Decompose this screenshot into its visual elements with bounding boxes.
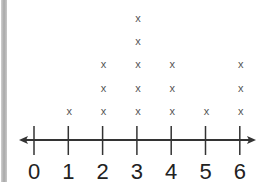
x-mark-icon: x — [169, 82, 175, 94]
x-mark-icon: x — [135, 12, 141, 24]
data-marks: xxxxxxxxxxxxxxxx — [67, 12, 245, 117]
tick-label-2: 2 — [96, 159, 108, 182]
x-mark-icon: x — [135, 105, 141, 117]
tick-label-1: 1 — [62, 159, 74, 182]
tick-label-0: 0 — [28, 159, 40, 182]
x-mark-icon: x — [135, 58, 141, 70]
x-mark-icon: x — [67, 105, 73, 117]
tick-label-6: 6 — [234, 159, 246, 182]
x-mark-icon: x — [135, 82, 141, 94]
x-mark-icon: x — [238, 82, 244, 94]
x-mark-icon: x — [101, 82, 107, 94]
x-mark-icon: x — [135, 35, 141, 47]
tick-label-5: 5 — [199, 159, 211, 182]
tick-label-3: 3 — [131, 159, 143, 182]
line-plot: 0123456 xxxxxxxxxxxxxxxx — [0, 0, 268, 182]
x-mark-icon: x — [238, 58, 244, 70]
x-mark-icon: x — [204, 105, 210, 117]
x-mark-icon: x — [169, 58, 175, 70]
tick-labels: 0123456 — [28, 159, 246, 182]
x-mark-icon: x — [101, 58, 107, 70]
tick-label-4: 4 — [165, 159, 177, 182]
x-mark-icon: x — [101, 105, 107, 117]
x-mark-icon: x — [169, 105, 175, 117]
x-mark-icon: x — [238, 105, 244, 117]
